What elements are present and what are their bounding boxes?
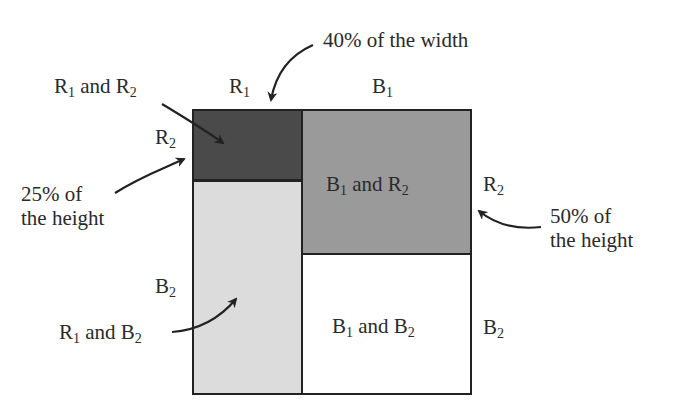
arrow-25-percent-height — [115, 159, 184, 193]
arrow-r1-and-r2 — [162, 104, 223, 143]
arrow-r1-and-b2 — [172, 299, 236, 332]
arrow-40-percent-width — [271, 45, 313, 100]
arrows-layer — [0, 0, 678, 416]
arrow-50-percent-height — [479, 211, 541, 228]
